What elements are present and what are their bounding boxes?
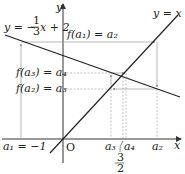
- cobweb-diagram: y x O y = x y = − 1 3 x + 2 f(a₁) = a₂ f…: [0, 0, 185, 174]
- x-axis-label: x: [174, 139, 181, 152]
- svg-text:y = −: y = −: [3, 21, 36, 34]
- tick-a1: a₁ = −1: [3, 140, 46, 153]
- tick-a2: a₂: [152, 140, 163, 153]
- label-fa3-eq-a4: f(a₃) = a₄: [15, 66, 67, 79]
- y-axis-label: y: [55, 1, 63, 14]
- label-f-equation: y = − 1 3 x + 2: [3, 14, 69, 38]
- dashed-guides: [63, 73, 157, 139]
- label-y-equals-x: y = x: [152, 7, 182, 20]
- tick-a3: a₃: [105, 140, 116, 153]
- svg-text:x + 2: x + 2: [40, 21, 69, 34]
- svg-text:2: 2: [117, 162, 124, 174]
- label-fa1-eq-a2: f(a₁) = a₂: [66, 28, 118, 41]
- label-fa2-eq-a3: f(a₂) = a₃: [15, 82, 67, 95]
- tick-a4: a₄: [124, 140, 135, 153]
- origin-label: O: [66, 141, 75, 154]
- svg-text:3: 3: [33, 25, 40, 38]
- fixed-point-label: 3 2: [115, 141, 124, 174]
